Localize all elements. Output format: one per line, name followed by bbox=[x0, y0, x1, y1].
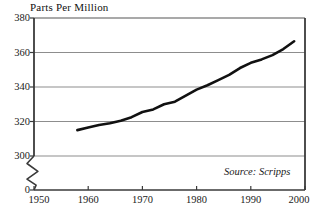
x-tick-label: 1990 bbox=[240, 194, 261, 205]
y-tick-label: 380 bbox=[0, 12, 30, 23]
x-tick-label: 1960 bbox=[78, 194, 99, 205]
data-series-group bbox=[77, 41, 294, 130]
y-tick-label: 360 bbox=[0, 47, 30, 58]
gridlines-group bbox=[34, 18, 305, 156]
x-tick-label: 1980 bbox=[186, 194, 207, 205]
x-tick-label: 1950 bbox=[29, 194, 50, 205]
source-note: Source: Scripps bbox=[224, 166, 290, 178]
x-tick-label: 2000 bbox=[289, 194, 310, 205]
y-tick-label: 320 bbox=[0, 116, 30, 127]
chart-figure: Parts Per Million 3803603403203000 19501… bbox=[0, 0, 323, 209]
y-tick-label-zero: 0 bbox=[0, 184, 30, 195]
data-line bbox=[77, 41, 294, 130]
y-tick-label: 340 bbox=[0, 81, 30, 92]
y-tick-label: 300 bbox=[0, 150, 30, 161]
x-tick-label: 1970 bbox=[132, 194, 153, 205]
